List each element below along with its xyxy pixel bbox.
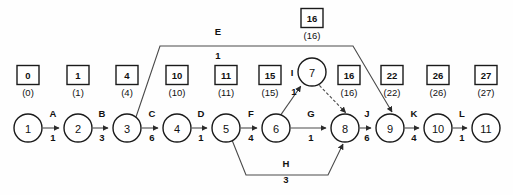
event-node-1: 1 xyxy=(14,114,42,142)
activity-duration-e: 1 xyxy=(215,50,221,61)
event-node-label-8: 8 xyxy=(342,123,348,135)
activity-name-g: G xyxy=(307,108,314,119)
network-diagram-canvas: 1234567891011 0(0)1(1)4(4)10(10)11(11)15… xyxy=(0,0,513,195)
latest-time-value-4: (10) xyxy=(169,87,186,98)
latest-time-value-5: (11) xyxy=(218,87,234,98)
latest-time-value-11: (27) xyxy=(478,87,495,98)
earliest-time-value-4: 10 xyxy=(172,70,183,81)
activity-name-j: J xyxy=(364,108,369,119)
activity-duration-b: 3 xyxy=(99,132,104,143)
latest-time-value-3: (4) xyxy=(121,87,133,98)
activity-duration-a: 1 xyxy=(50,132,56,143)
activity-name-l: L xyxy=(459,108,465,119)
time-box-3: 4(4) xyxy=(116,66,138,98)
event-node-4: 4 xyxy=(163,114,191,142)
time-box-5: 11(11) xyxy=(215,66,237,98)
event-node-6: 6 xyxy=(262,114,290,142)
activity-name-f: F xyxy=(248,108,254,119)
activity-name-e: E xyxy=(215,26,221,37)
time-box-2: 1(1) xyxy=(67,66,89,98)
event-node-2: 2 xyxy=(64,114,92,142)
event-node-9: 9 xyxy=(376,114,404,142)
event-node-label-11: 11 xyxy=(480,123,491,135)
event-node-10: 10 xyxy=(424,114,452,142)
earliest-time-value-1: 0 xyxy=(25,70,30,81)
event-node-label-3: 3 xyxy=(124,123,130,135)
event-node-label-4: 4 xyxy=(174,123,180,135)
latest-time-value-9: (22) xyxy=(384,87,401,98)
event-node-3: 3 xyxy=(113,114,141,142)
earliest-time-value-8: 16 xyxy=(344,70,355,81)
latest-time-value-1: (0) xyxy=(22,87,34,98)
time-box-10: 26(26) xyxy=(427,66,449,98)
event-node-label-5: 5 xyxy=(223,123,229,135)
event-node-11: 11 xyxy=(472,114,500,142)
activity-duration-g: 1 xyxy=(308,132,314,143)
time-box-6: 15(15) xyxy=(259,66,281,98)
event-node-label-1: 1 xyxy=(25,123,31,135)
activity-duration-i: 1 xyxy=(291,86,297,97)
activity-duration-c: 6 xyxy=(149,132,154,143)
latest-time-value-2: (1) xyxy=(72,87,84,98)
activity-duration-h: 3 xyxy=(283,174,288,185)
earliest-time-value-9: 22 xyxy=(387,70,398,81)
event-node-label-6: 6 xyxy=(273,123,279,135)
activity-name-a: A xyxy=(50,108,57,119)
latest-time-value-8: (16) xyxy=(341,87,358,98)
event-node-7: 7 xyxy=(298,58,326,86)
earliest-time-value-3: 4 xyxy=(124,70,130,81)
event-node-label-2: 2 xyxy=(75,123,81,135)
time-box-9: 22(22) xyxy=(381,66,403,98)
activity-duration-d: 1 xyxy=(198,132,204,143)
time-box-4: 10(10) xyxy=(166,66,188,98)
activity-name-b: B xyxy=(99,108,106,119)
event-node-label-7: 7 xyxy=(309,67,315,79)
activity-name-i: I xyxy=(291,67,294,78)
time-box-7: 16(16) xyxy=(301,9,323,41)
network-diagram-svg: 1234567891011 0(0)1(1)4(4)10(10)11(11)15… xyxy=(0,0,513,195)
earliest-time-value-11: 27 xyxy=(481,70,492,81)
edge-labels-layer: A1B3C6D1F4G1J6K4L1E1H3I1 xyxy=(50,26,466,185)
time-box-8: 16(16) xyxy=(338,66,360,98)
time-box-11: 27(27) xyxy=(475,66,497,98)
event-node-label-10: 10 xyxy=(432,123,444,135)
time-box-1: 0(0) xyxy=(17,66,39,98)
earliest-time-value-5: 11 xyxy=(221,70,232,81)
activity-name-k: K xyxy=(411,108,418,119)
activity-duration-k: 4 xyxy=(411,132,417,143)
event-node-8: 8 xyxy=(331,114,359,142)
earliest-time-value-7: 16 xyxy=(307,13,318,24)
latest-time-value-10: (26) xyxy=(430,87,447,98)
earliest-time-value-6: 15 xyxy=(265,70,276,81)
earliest-time-value-2: 1 xyxy=(75,70,81,81)
latest-time-value-7: (16) xyxy=(304,30,321,41)
activity-name-c: C xyxy=(149,108,156,119)
activity-name-d: D xyxy=(198,108,205,119)
latest-time-value-6: (15) xyxy=(262,87,279,98)
activity-name-h: H xyxy=(283,158,290,169)
time-boxes-layer: 0(0)1(1)4(4)10(10)11(11)15(15)16(16)16(1… xyxy=(17,9,497,98)
activity-duration-f: 4 xyxy=(248,132,254,143)
activity-duration-j: 6 xyxy=(364,132,369,143)
event-node-5: 5 xyxy=(212,114,240,142)
activity-duration-l: 1 xyxy=(459,132,465,143)
event-node-label-9: 9 xyxy=(387,123,393,135)
earliest-time-value-10: 26 xyxy=(433,70,444,81)
